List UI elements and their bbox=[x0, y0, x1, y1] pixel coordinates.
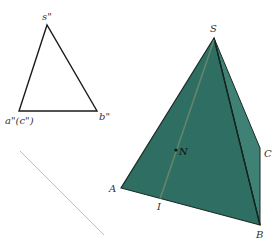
label-b-double-prime: b" bbox=[99, 111, 110, 122]
label-S: S bbox=[210, 23, 217, 34]
side-projection-triangle bbox=[19, 25, 97, 111]
label-C: C bbox=[264, 148, 272, 159]
label-B: B bbox=[255, 229, 263, 240]
label-N: N bbox=[178, 146, 189, 157]
label-s-double-prime: s" bbox=[42, 11, 52, 22]
label-a-c-double-prime: a"(c") bbox=[5, 115, 34, 126]
projection-axis-line bbox=[20, 151, 104, 235]
label-I: I bbox=[156, 201, 162, 212]
point-n bbox=[174, 148, 177, 151]
diagram-canvas: s" a"(c") b" S A B C N I bbox=[0, 0, 275, 246]
label-A: A bbox=[108, 183, 116, 194]
